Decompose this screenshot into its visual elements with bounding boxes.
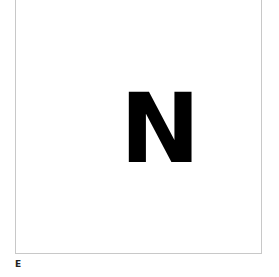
card-caption: E bbox=[15, 259, 21, 269]
letter-card[interactable]: N bbox=[15, 0, 262, 254]
card-letter: N bbox=[120, 81, 192, 177]
